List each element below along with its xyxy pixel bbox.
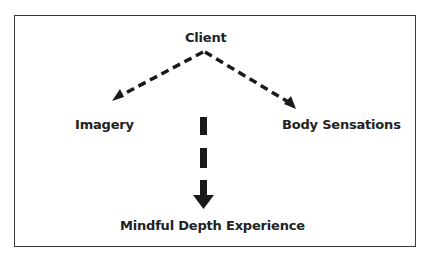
arrowhead-icon — [193, 195, 214, 209]
node-mindful-depth-experience: Mindful Depth Experience — [120, 218, 305, 233]
arrow-client-to-mindful-depth — [193, 117, 214, 209]
arrowhead-icon — [112, 89, 124, 101]
arrow-client-to-body-sensations — [205, 52, 296, 109]
arrow-client-to-imagery — [112, 52, 203, 101]
arrowhead-icon — [284, 96, 296, 109]
node-body-sensations: Body Sensations — [282, 117, 401, 132]
node-imagery: Imagery — [75, 117, 134, 132]
node-client: Client — [185, 30, 227, 45]
